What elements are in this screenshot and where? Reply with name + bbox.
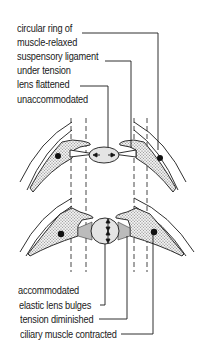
leader-lines bbox=[80, 33, 158, 334]
label-ciliary-muscle-contracted: ciliary muscle contracted bbox=[20, 328, 117, 340]
label-elastic-lens-bulges: elastic lens bulges bbox=[19, 299, 91, 311]
label-muscle-relaxed: muscle-relaxed bbox=[17, 36, 77, 48]
label-circular-ring: circular ring of bbox=[17, 22, 72, 34]
label-under-tension: under tension bbox=[17, 64, 71, 76]
label-suspensory-ligament: suspensory ligament bbox=[17, 50, 98, 62]
label-tension-diminished: tension diminished bbox=[20, 313, 93, 325]
eye-top-right bbox=[113, 122, 186, 192]
label-lens-flattened: lens flattened bbox=[17, 78, 70, 90]
lens-flattened bbox=[89, 147, 119, 163]
lens-bulged bbox=[91, 218, 119, 244]
label-unaccommodated: unaccommodated bbox=[17, 93, 88, 105]
label-accommodated: accommodated bbox=[18, 284, 79, 296]
eye-bottom-left bbox=[20, 198, 93, 256]
eye-top-left bbox=[20, 122, 95, 192]
eye-bottom-right bbox=[116, 198, 194, 256]
